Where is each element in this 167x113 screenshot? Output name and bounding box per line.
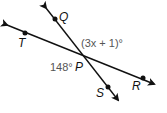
line-tr: [7, 25, 154, 84]
point-q-dot: [53, 17, 58, 22]
angle-label-upper-right: (3x + 1)°: [81, 37, 123, 49]
label-t: T: [18, 36, 27, 50]
geometry-diagram: Q T P S R (3x + 1)° 148°: [0, 0, 167, 113]
label-p: P: [75, 60, 83, 74]
label-r: R: [132, 79, 141, 93]
point-s-dot: [106, 85, 111, 90]
label-s: S: [96, 86, 104, 100]
point-r-dot: [141, 76, 146, 81]
angle-label-lower-left: 148°: [50, 61, 73, 73]
label-q: Q: [59, 10, 68, 24]
point-t-dot: [23, 31, 28, 36]
